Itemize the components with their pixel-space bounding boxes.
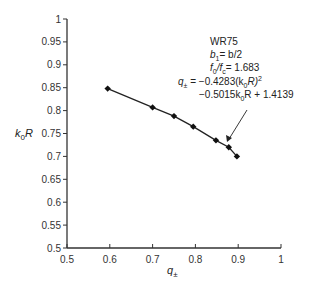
y-tick-label: 0.75 [42,128,62,139]
y-tick-label: 0.85 [42,82,62,93]
diamond-marker [213,137,219,143]
x-tick-label: 0.7 [146,254,160,265]
diamond-marker [104,85,110,91]
y-tick-label: 0.6 [47,197,61,208]
y-tick-label: 1 [55,14,61,25]
x-tick-label: 0.6 [103,254,117,265]
x-tick-label: 1 [278,254,284,265]
diamond-marker [190,123,196,129]
annotation-case: WR75 [210,36,238,47]
diamond-marker [149,104,155,110]
x-ticks: 0.50.60.70.80.91 [60,244,284,265]
y-tick-label: 0.65 [42,174,62,185]
y-tick-label: 0.95 [42,36,62,47]
diamond-marker [171,113,177,119]
x-tick-label: 0.5 [60,254,74,265]
y-tick-label: 0.5 [47,243,61,254]
chart: 0.50.550.60.650.70.750.80.850.90.951 0.5… [0,0,311,291]
y-tick-label: 0.8 [47,105,61,116]
y-axis-label: k0R [15,127,33,142]
annotation-f-ratio: f0/fc= 1.683 [210,62,260,75]
x-tick-label: 0.9 [231,254,245,265]
annotation-arrow [226,110,247,142]
annotation-equation-line2: −0.5015k0R + 1.4139 [199,89,294,102]
annotation-b-relation: b1= b/2 [210,49,242,62]
y-tick-label: 0.9 [47,59,61,70]
x-axis-label: q± [167,264,178,279]
y-ticks: 0.50.550.60.650.70.750.80.850.90.951 [42,14,67,254]
annotation-equation-line1: q± = −0.4283(k0R)2 [178,75,262,89]
y-tick-label: 0.7 [47,151,61,162]
y-tick-label: 0.55 [42,220,62,231]
x-tick-label: 0.8 [188,254,202,265]
